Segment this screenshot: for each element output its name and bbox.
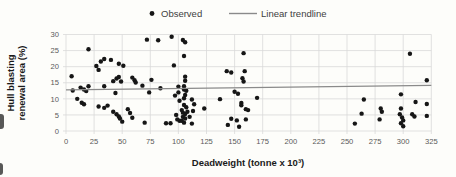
scatter-point (255, 96, 259, 100)
scatter-point (133, 80, 137, 84)
scatter-point (147, 90, 151, 94)
y-tick-label: 15 (51, 78, 59, 87)
scatter-point (96, 104, 100, 108)
x-tick-label: 275 (369, 137, 382, 146)
chart-legend: Observed Linear trendline (150, 8, 327, 19)
y-tick-label: 0 (55, 127, 59, 136)
scatter-point (71, 88, 75, 92)
scatter-point (117, 75, 121, 79)
scatter-point (191, 109, 195, 113)
scatter-point (176, 90, 180, 94)
scatter-point (183, 79, 187, 83)
scatter-point (164, 121, 168, 125)
scatter-point (140, 83, 144, 87)
scatter-point (117, 62, 121, 66)
x-axis-tick-labels: 0255075100125150175200225250275300325 (64, 137, 438, 146)
scatter-point (190, 121, 194, 125)
scatter-point (105, 103, 109, 107)
scatter-point (168, 121, 172, 125)
scatter-point (177, 99, 181, 103)
x-tick-label: 175 (256, 137, 269, 146)
scatter-point (109, 58, 113, 62)
scatter-point (425, 78, 429, 82)
scatter-point (425, 102, 429, 106)
y-axis-title-line2: renewal area (%) (16, 46, 27, 121)
scatter-point (202, 106, 206, 110)
x-tick-label: 325 (425, 137, 438, 146)
scatter-point (126, 107, 130, 111)
chart-screenshot: 0255075100125150175200225250275300325 05… (0, 0, 456, 177)
scatter-point (229, 70, 233, 74)
scatter-point (102, 84, 106, 88)
scatter-point (425, 114, 429, 118)
scatter-point (241, 79, 245, 83)
scatter-point (246, 108, 250, 112)
y-axis-title-line1: Hull blasting (5, 54, 16, 111)
scan-artifact (0, 163, 3, 175)
scatter-point (225, 69, 229, 73)
x-tick-label: 250 (341, 137, 354, 146)
y-tick-label: 20 (51, 62, 59, 71)
x-tick-label: 125 (200, 137, 213, 146)
scatter-point (86, 47, 90, 51)
scatter-point (69, 74, 73, 78)
x-axis-title: Deadweight (tonne x 10³) (192, 157, 304, 168)
scatter-point (362, 97, 366, 101)
scatter-point (190, 97, 194, 101)
scatter-point (182, 120, 186, 124)
legend-trendline-label: Linear trendline (261, 8, 327, 19)
scatter-point (169, 35, 173, 39)
scatter-point (142, 120, 146, 124)
scatter-point (75, 97, 79, 101)
scatter-point (413, 100, 417, 104)
scatter-point (172, 63, 176, 67)
scatter-point (149, 78, 153, 82)
x-tick-label: 0 (64, 137, 68, 146)
scatter-point (184, 89, 188, 93)
scatter-point (229, 117, 233, 121)
scatter-point (94, 64, 98, 68)
scatter-point (377, 117, 381, 121)
scatter-point (102, 57, 106, 61)
x-tick-label: 50 (118, 137, 126, 146)
scatter-point (399, 92, 403, 96)
scatter-point (359, 111, 363, 115)
scatter-point (128, 111, 132, 115)
scatter-point (226, 123, 230, 127)
scatter-point (113, 91, 117, 95)
scatter-point (236, 91, 240, 95)
scatter-point (192, 102, 196, 106)
scatter-point (380, 110, 384, 114)
scatter-point (241, 51, 245, 55)
x-tick-label: 300 (397, 137, 410, 146)
x-tick-label: 75 (146, 137, 154, 146)
scatter-point (173, 93, 177, 97)
scatter-point (183, 40, 187, 44)
scatter-point (401, 124, 405, 128)
scatter-point (237, 125, 241, 129)
y-axis-tick-labels: 051015202530 (51, 30, 59, 136)
scatter-point (239, 103, 243, 107)
x-tick-label: 150 (228, 137, 241, 146)
legend-observed-label: Observed (161, 8, 202, 19)
scatter-point (353, 121, 357, 125)
observed-marker-icon (150, 11, 155, 16)
scatter-point (184, 105, 188, 109)
scatter-point (187, 115, 191, 119)
x-tick-label: 100 (172, 137, 185, 146)
scatter-point (121, 64, 125, 68)
y-tick-label: 30 (51, 30, 59, 39)
scatter-point (82, 102, 86, 106)
x-tick-label: 25 (90, 137, 98, 146)
x-tick-label: 200 (284, 137, 297, 146)
y-tick-label: 10 (51, 95, 59, 104)
x-tick-label: 225 (313, 137, 326, 146)
scatter-point (408, 52, 412, 56)
scatter-point (235, 118, 239, 122)
scatter-point (218, 97, 222, 101)
scatter-point (182, 96, 186, 100)
scatter-point (86, 84, 90, 88)
trendline (66, 85, 431, 90)
scatter-point (412, 114, 416, 118)
y-tick-label: 25 (51, 46, 59, 55)
